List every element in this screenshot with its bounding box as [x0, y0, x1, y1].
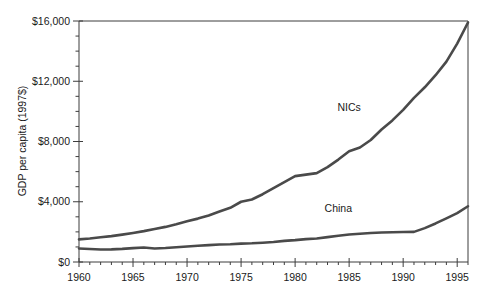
x-tick-label: 1995 — [446, 271, 470, 283]
series-line-china — [79, 206, 468, 249]
series-line-nics — [79, 23, 468, 240]
series-label-nics: NICs — [337, 101, 360, 113]
chart-canvas: $0$4,000$8,000$12,000$16,000 19601965197… — [0, 0, 492, 291]
y-tick-label: $8,000 — [38, 135, 70, 147]
plot-frame — [79, 21, 468, 262]
x-tick-label: 1980 — [283, 271, 307, 283]
x-tick-label: 1965 — [121, 271, 145, 283]
y-axis-ticks — [73, 21, 83, 262]
x-tick-label: 1960 — [67, 271, 91, 283]
x-axis-tick-labels: 19601965197019751980198519901995 — [67, 271, 469, 283]
x-tick-label: 1970 — [175, 271, 199, 283]
y-axis-title: GDP per capita (1997$) — [16, 86, 28, 197]
x-tick-label: 1990 — [391, 271, 415, 283]
y-axis-tick-labels: $0$4,000$8,000$12,000$16,000 — [32, 15, 70, 268]
y-tick-label: $0 — [58, 256, 70, 268]
y-tick-label: $16,000 — [32, 15, 70, 27]
x-tick-label: 1975 — [229, 271, 253, 283]
x-tick-label: 1985 — [337, 271, 361, 283]
gdp-per-capita-line-chart: $0$4,000$8,000$12,000$16,000 19601965197… — [0, 0, 492, 291]
y-tick-label: $12,000 — [32, 75, 70, 87]
data-series-group — [79, 23, 468, 250]
y-tick-label: $4,000 — [38, 195, 70, 207]
series-label-china: China — [325, 202, 353, 214]
